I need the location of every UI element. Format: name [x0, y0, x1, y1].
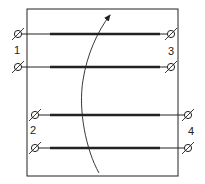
conductor-lines — [18, 34, 188, 148]
terminal-label: 2 — [30, 124, 36, 136]
terminal-label: 1 — [14, 44, 20, 56]
terminal-4: 4 — [182, 109, 194, 154]
terminal-3: 3 — [165, 28, 177, 73]
terminal-label: 3 — [168, 45, 174, 57]
terminal-2: 2 — [29, 109, 41, 154]
terminal-group: 1324 — [12, 28, 194, 154]
terminal-label: 4 — [188, 125, 194, 137]
terminal-1: 1 — [12, 28, 24, 73]
coupling-arrow-icon — [81, 15, 110, 173]
coupled-lines-diagram: 1324 — [0, 0, 205, 184]
